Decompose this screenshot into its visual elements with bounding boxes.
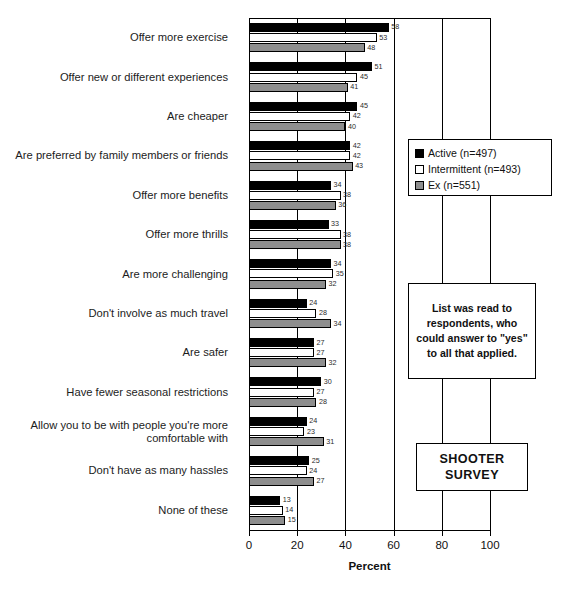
legend-swatch-ex-icon	[415, 181, 424, 190]
bar-value-label: 42	[353, 142, 361, 149]
bar-row: 51	[249, 62, 490, 71]
bar-ex	[249, 477, 314, 486]
bar-active	[249, 496, 280, 505]
bar-row: 13	[249, 496, 490, 505]
bar-value-label: 23	[307, 428, 315, 435]
bar-value-label: 15	[288, 517, 296, 524]
bar-row: 34	[249, 259, 490, 268]
bar-value-label: 51	[374, 63, 382, 70]
category-label: Don't involve as much travel	[0, 307, 228, 320]
category-label: Offer more benefits	[0, 189, 228, 202]
legend-label-intermittent: Intermittent (n=493)	[428, 163, 521, 175]
category-label: Are safer	[0, 346, 228, 359]
bar-value-label: 27	[317, 349, 325, 356]
category-label: Have fewer seasonal restrictions	[0, 386, 228, 399]
survey-label-line1: SHOOTER	[439, 451, 504, 467]
bar-row: 40	[249, 122, 490, 131]
bar-ex	[249, 43, 365, 52]
bar-value-label: 28	[319, 399, 327, 406]
legend-item-intermittent: Intermittent (n=493)	[415, 161, 545, 177]
survey-label-text: SHOOTER SURVEY	[439, 451, 504, 483]
bar-value-label: 36	[338, 202, 346, 209]
bar-value-label: 53	[379, 34, 387, 41]
bar-value-label: 24	[309, 418, 317, 425]
bar-value-label: 34	[333, 181, 341, 188]
bar-value-label: 27	[317, 339, 325, 346]
bar-value-label: 32	[329, 359, 337, 366]
bar-value-label: 32	[329, 281, 337, 288]
bar-ex	[249, 437, 324, 446]
bar-value-label: 31	[326, 438, 334, 445]
bar-row: 45	[249, 102, 490, 111]
legend-item-active: Active (n=497)	[415, 145, 545, 161]
bar-active	[249, 23, 389, 32]
bar-value-label: 58	[391, 24, 399, 31]
bar-group: 585348	[249, 23, 490, 52]
x-tick	[345, 530, 346, 536]
bar-value-label: 35	[336, 270, 344, 277]
legend-item-ex: Ex (n=551)	[415, 177, 545, 193]
bar-intermittent	[249, 388, 314, 397]
x-tick	[394, 530, 395, 536]
category-label: Offer more exercise	[0, 31, 228, 44]
bar-value-label: 27	[317, 478, 325, 485]
legend-swatch-intermittent-icon	[415, 165, 424, 174]
bar-ex	[249, 162, 353, 171]
bar-row: 33	[249, 220, 490, 229]
x-tick-label: 0	[246, 539, 252, 551]
bar-value-label: 13	[283, 496, 291, 503]
bar-value-label: 27	[317, 389, 325, 396]
bar-intermittent	[249, 427, 304, 436]
note-box: List was read to respondents, who could …	[408, 283, 536, 379]
bar-group: 333838	[249, 220, 490, 249]
bar-row: 15	[249, 516, 490, 525]
bar-active	[249, 456, 309, 465]
bar-active	[249, 338, 314, 347]
x-tick-label: 20	[291, 539, 304, 551]
x-axis: 020406080100	[249, 530, 490, 531]
legend-label-active: Active (n=497)	[428, 147, 497, 159]
category-label: Are more challenging	[0, 268, 228, 281]
bar-row: 14	[249, 506, 490, 515]
x-tick	[249, 530, 250, 536]
bar-value-label: 25	[312, 457, 320, 464]
bar-group: 454240	[249, 102, 490, 131]
bar-ex	[249, 516, 285, 525]
bar-value-label: 45	[360, 73, 368, 80]
bar-intermittent	[249, 506, 283, 515]
bar-active	[249, 102, 357, 111]
bar-row: 42	[249, 112, 490, 121]
bar-ex	[249, 201, 336, 210]
bar-ex	[249, 83, 348, 92]
bar-value-label: 38	[343, 241, 351, 248]
category-label: Don't have as many hassles	[0, 464, 228, 477]
category-label: Are preferred by family members or frien…	[0, 149, 228, 162]
bar-row: 58	[249, 23, 490, 32]
bar-ex	[249, 319, 331, 328]
bar-active	[249, 181, 331, 190]
bar-active	[249, 259, 331, 268]
bar-group: 242331	[249, 417, 490, 446]
legend-swatch-active-icon	[415, 149, 424, 158]
bar-row: 35	[249, 269, 490, 278]
bar-value-label: 41	[350, 84, 358, 91]
category-label: Offer more thrills	[0, 228, 228, 241]
bar-value-label: 48	[367, 44, 375, 51]
bar-active	[249, 299, 307, 308]
category-label: Allow you to be with people you're more …	[0, 419, 228, 444]
bar-group: 514541	[249, 62, 490, 91]
bar-value-label: 42	[353, 152, 361, 159]
bar-intermittent	[249, 230, 341, 239]
legend: Active (n=497) Intermittent (n=493) Ex (…	[408, 139, 552, 196]
bar-row: 53	[249, 33, 490, 42]
x-tick	[297, 530, 298, 536]
bar-row: 24	[249, 417, 490, 426]
x-axis-line	[249, 530, 490, 531]
bar-row: 36	[249, 201, 490, 210]
bar-intermittent	[249, 73, 357, 82]
bar-group: 131415	[249, 496, 490, 525]
x-tick-label: 80	[435, 539, 448, 551]
bar-row: 45	[249, 73, 490, 82]
x-tick-label: 60	[387, 539, 400, 551]
bar-value-label: 45	[360, 103, 368, 110]
